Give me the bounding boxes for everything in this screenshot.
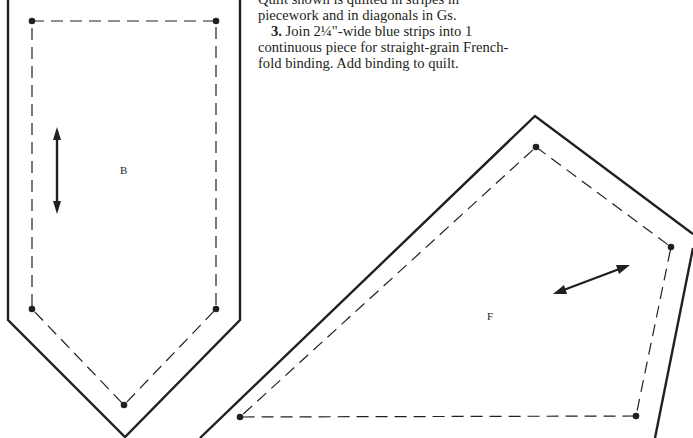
piece-f-cut-line: [200, 116, 693, 438]
piece-label-f: F: [487, 310, 493, 322]
grain-arrow-icon: [53, 127, 61, 214]
piece-f: [200, 116, 693, 438]
piece-label-b: B: [120, 164, 127, 176]
instructions-text: Quilt shown is quilted in stripes in pie…: [258, 0, 518, 71]
instruction-step-3: 3. Join 2¼"-wide blue strips into 1 cont…: [258, 23, 518, 71]
piece-b: [8, 0, 240, 437]
step-3-text: Join 2¼"-wide blue strips into 1 continu…: [258, 23, 508, 71]
step-number: 3.: [271, 23, 282, 39]
piece-f-seam-dots: [237, 144, 675, 421]
piece-f-cut-line-right: [655, 248, 693, 438]
instruction-line-quilting: Quilt shown is quilted in stripes in: [258, 0, 518, 7]
instruction-line-quilting-cont: piecework and in diagonals in Gs.: [258, 7, 518, 23]
grain-arrow-icon: [553, 265, 630, 294]
piece-b-seam-line: [32, 21, 216, 405]
piece-f-seam-line: [240, 147, 671, 417]
piece-b-cut-line: [8, 0, 240, 437]
